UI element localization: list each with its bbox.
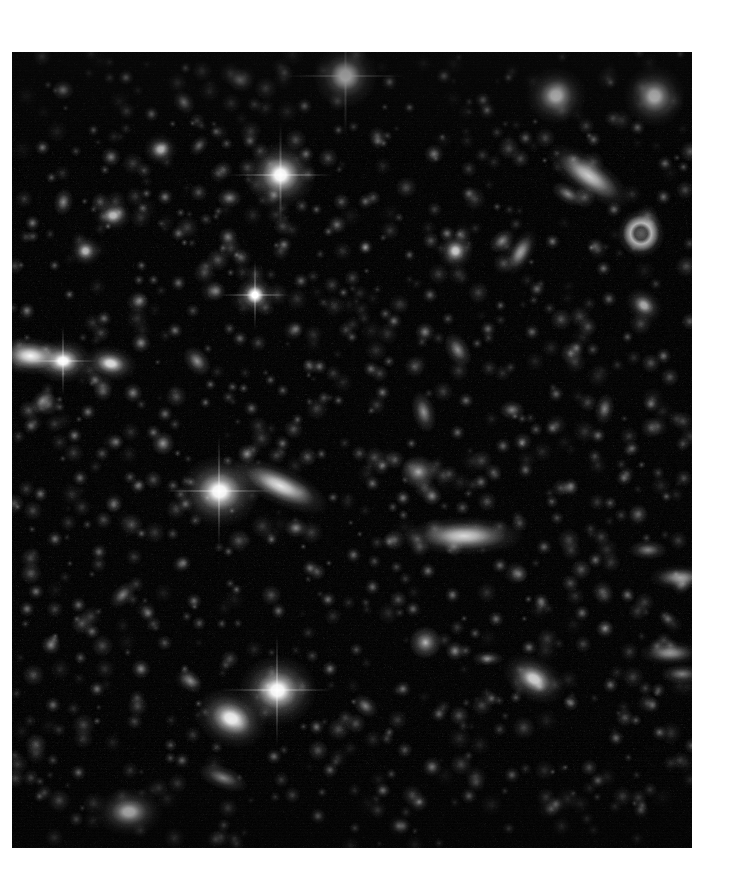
page-root: Grayscale deep-field survey image showin… — [0, 0, 733, 890]
image-noise-layer — [12, 52, 692, 848]
deep-field-image — [12, 52, 692, 848]
